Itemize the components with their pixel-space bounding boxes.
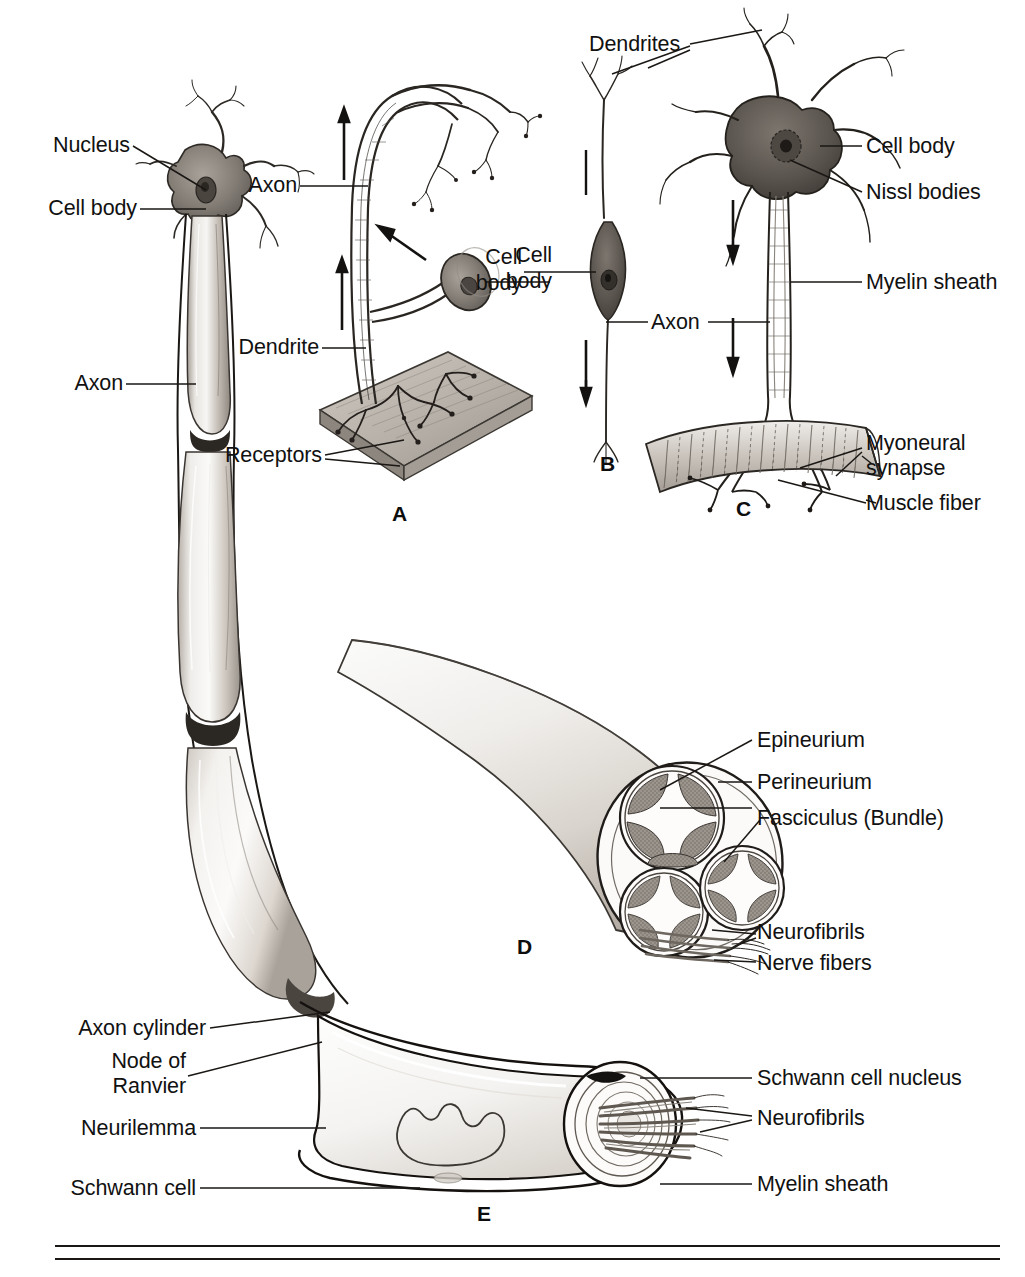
c-muscle-fiber bbox=[646, 421, 880, 512]
label-nerve-fibers: Nerve fibers bbox=[757, 951, 872, 976]
bottom-rules bbox=[55, 1246, 1000, 1259]
label-receptors-a: Receptors bbox=[140, 443, 322, 468]
label-perineurium: Perineurium bbox=[757, 770, 872, 795]
main-neuron-artwork bbox=[136, 80, 348, 1018]
figure-plate: Nucleus Cell body Axon Axon Dendrite Rec… bbox=[0, 0, 1025, 1277]
leader-b-dendrites-3 bbox=[690, 30, 762, 44]
panel-e-artwork bbox=[299, 1002, 730, 1191]
panel-letter-b: B bbox=[600, 452, 615, 476]
label-axon-main: Axon bbox=[0, 371, 123, 396]
myelin-internode-1 bbox=[187, 216, 230, 434]
leader-e-axoncylinder bbox=[210, 1012, 330, 1028]
label-cell-body-b-line2: body bbox=[446, 271, 522, 296]
label-myoneural-line1: Myoneural bbox=[866, 431, 965, 456]
label-cell-body-main: Cell body bbox=[0, 196, 137, 221]
label-axon-a: Axon bbox=[160, 173, 297, 198]
label-node-line2: Ranvier bbox=[0, 1074, 186, 1099]
label-neurofibrils-d: Neurofibrils bbox=[757, 920, 865, 945]
label-node-line1: Node of bbox=[0, 1049, 186, 1074]
label-neurilemma: Neurilemma bbox=[0, 1116, 196, 1141]
label-fasciculus: Fasciculus (Bundle) bbox=[757, 806, 944, 831]
panel-letter-d: D bbox=[517, 935, 532, 959]
panel-b-artwork bbox=[581, 56, 632, 464]
label-schwann-cell-nucleus: Schwann cell nucleus bbox=[757, 1066, 962, 1091]
panel-letter-a: A bbox=[392, 502, 407, 526]
label-schwann-cell: Schwann cell bbox=[0, 1176, 196, 1201]
label-dendrites-b: Dendrites bbox=[589, 32, 680, 57]
receptor-plate bbox=[320, 352, 532, 466]
label-nissl-bodies: Nissl bodies bbox=[866, 180, 981, 205]
a-cellbody-branch bbox=[370, 282, 448, 322]
label-axon-bc: Axon bbox=[651, 310, 700, 335]
label-axon-cylinder: Axon cylinder bbox=[0, 1016, 206, 1041]
panel-letter-c: C bbox=[736, 497, 751, 521]
leader-e-neurofibrils-2 bbox=[700, 1120, 752, 1132]
panel-d-artwork bbox=[338, 640, 805, 980]
d-fascicle-2 bbox=[620, 868, 708, 956]
d-fascicle-1 bbox=[620, 766, 724, 870]
label-myoneural-line2: synapse bbox=[866, 456, 945, 481]
label-dendrite-a: Dendrite bbox=[160, 335, 319, 360]
panel-letter-e: E bbox=[477, 1202, 491, 1226]
label-muscle-fiber: Muscle fiber bbox=[866, 491, 981, 516]
label-cell-body-c: Cell body bbox=[866, 134, 955, 159]
label-neurofibrils-e: Neurofibrils bbox=[757, 1106, 865, 1131]
leader-c-musclefiber bbox=[778, 480, 866, 503]
leader-e-node bbox=[188, 1042, 322, 1076]
a-direction-arrows bbox=[337, 108, 426, 330]
leader-e-neurofibrils-1 bbox=[686, 1108, 752, 1116]
label-myelin-sheath-c: Myelin sheath bbox=[866, 270, 997, 295]
d-fascicle-3 bbox=[700, 846, 784, 930]
b-direction-arrow bbox=[581, 340, 591, 404]
label-nucleus: Nucleus bbox=[0, 133, 130, 158]
label-myelin-sheath-e: Myelin sheath bbox=[757, 1172, 888, 1197]
label-cell-body-b-line1: Cell bbox=[446, 245, 522, 270]
label-epineurium: Epineurium bbox=[757, 728, 865, 753]
